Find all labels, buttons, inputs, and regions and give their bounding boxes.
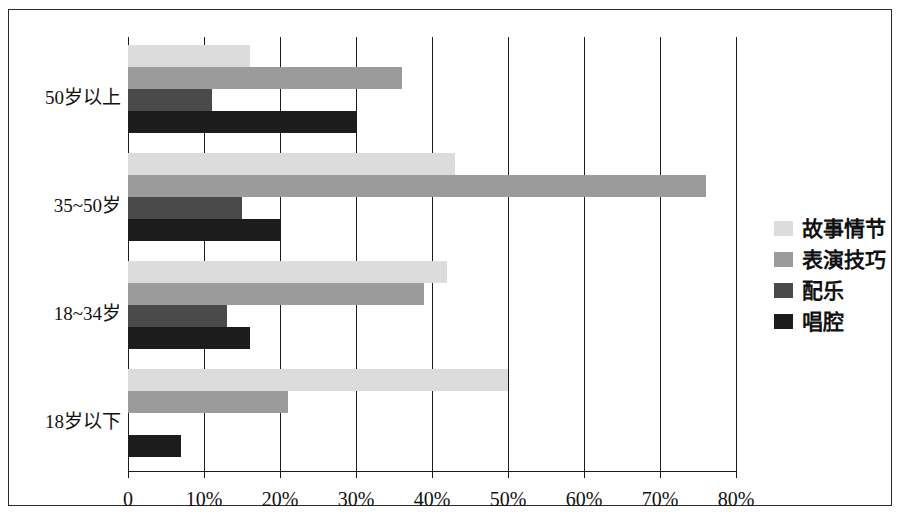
bar-group-3 [128, 361, 736, 469]
x-tick-label-6: 60% [566, 486, 603, 512]
category-label-2: 18~34岁 [11, 303, 121, 325]
x-tick-0 [128, 471, 129, 478]
bar-0-story [128, 45, 250, 67]
legend-label-singing: 唱腔 [802, 310, 844, 334]
category-label-1: 35~50岁 [11, 195, 121, 217]
bar-group-1 [128, 145, 736, 253]
legend-item-acting: 表演技巧 [774, 244, 900, 275]
x-axis-tick-labels: 0 10% 20% 30% 40% 50% 60% 70% 80% [9, 486, 893, 516]
bar-3-singing [128, 435, 181, 457]
plot-area [128, 37, 736, 471]
bar-2-story [128, 261, 447, 283]
x-tick-label-1: 10% [186, 486, 223, 512]
x-tick-80 [736, 471, 737, 478]
acting-swatch-icon [774, 252, 793, 267]
bar-1-story [128, 153, 455, 175]
legend-label-story: 故事情节 [802, 217, 886, 241]
x-tick-label-4: 40% [414, 486, 451, 512]
x-tick-10 [204, 471, 205, 478]
bar-0-music [128, 89, 212, 111]
legend-item-music: 配乐 [774, 275, 900, 306]
category-label-3: 18岁以下 [11, 411, 121, 433]
x-tick-70 [660, 471, 661, 478]
x-tick-label-8: 80% [718, 486, 755, 512]
bar-3-acting [128, 391, 288, 413]
x-tick-label-5: 50% [490, 486, 527, 512]
singing-swatch-icon [774, 314, 793, 329]
bar-0-acting [128, 67, 402, 89]
x-tick-20 [280, 471, 281, 478]
legend-item-singing: 唱腔 [774, 306, 900, 337]
x-tick-40 [432, 471, 433, 478]
bar-3-story [128, 369, 508, 391]
x-tick-label-3: 30% [338, 486, 375, 512]
x-tick-label-0: 0 [123, 486, 133, 512]
bar-2-music [128, 305, 227, 327]
x-tick-50 [508, 471, 509, 478]
bar-group-2 [128, 253, 736, 361]
bar-2-acting [128, 283, 424, 305]
bar-1-singing [128, 219, 280, 241]
legend-label-music: 配乐 [802, 279, 844, 303]
bar-group-0 [128, 37, 736, 145]
bar-1-acting [128, 175, 706, 197]
story-swatch-icon [774, 221, 793, 236]
bar-0-singing [128, 111, 356, 133]
category-label-0: 50岁以上 [11, 87, 121, 109]
legend-item-story: 故事情节 [774, 213, 900, 244]
x-tick-60 [584, 471, 585, 478]
legend-label-acting: 表演技巧 [802, 248, 886, 272]
x-tick-label-7: 70% [642, 486, 679, 512]
music-swatch-icon [774, 283, 793, 298]
chart-legend: 故事情节 表演技巧 配乐 唱腔 [774, 213, 900, 337]
y-axis-category-labels: 50岁以上 35~50岁 18~34岁 18岁以下 [9, 37, 121, 471]
x-tick-label-2: 20% [262, 486, 299, 512]
bar-2-singing [128, 327, 250, 349]
x-tick-30 [356, 471, 357, 478]
gridline-80 [736, 37, 737, 471]
chart-frame: 50岁以上 35~50岁 18~34岁 18岁以下 [8, 9, 892, 506]
bar-1-music [128, 197, 242, 219]
